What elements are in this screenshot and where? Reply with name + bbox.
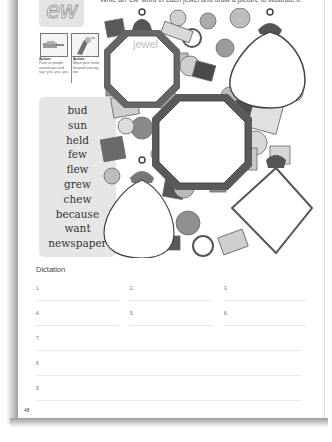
- writing-line: [224, 325, 306, 326]
- jewels-illustration: jewel: [100, 8, 324, 258]
- dictation-title: Dictation: [36, 265, 65, 274]
- action-2: Action: Move your head forward and say e…: [71, 57, 103, 83]
- dictation-number: 4.: [36, 311, 40, 316]
- instruction-text: Write an 'ew' word in each jewel and dra…: [100, 0, 302, 3]
- dictation-item-3[interactable]: 3.: [224, 286, 304, 310]
- dictation-item-2[interactable]: 2.: [130, 286, 210, 310]
- writing-line: [130, 325, 212, 326]
- page-shadow-bottom: [10, 418, 328, 428]
- dictation-item-4[interactable]: 4.: [36, 311, 116, 335]
- dictation-item-9[interactable]: 9.: [36, 386, 306, 410]
- writing-line: [36, 300, 118, 301]
- dictation-number: 5.: [130, 311, 134, 316]
- dictation-number: 1.: [36, 286, 40, 291]
- dictation-item-5[interactable]: 5.: [130, 311, 210, 335]
- sound-badge: ew: [39, 0, 84, 27]
- dictation-number: 8.: [36, 361, 40, 366]
- dictation-item-7[interactable]: 7.: [36, 336, 306, 360]
- dictation-item-8[interactable]: 8.: [36, 361, 306, 385]
- writing-line: [36, 325, 118, 326]
- sound-label: ew: [46, 0, 77, 22]
- action-2-text: Move your head forward and say ew.: [73, 61, 99, 74]
- dictation-item-1[interactable]: 1.: [36, 286, 116, 310]
- dictation-item-6[interactable]: 6.: [224, 311, 304, 335]
- writing-line: [36, 350, 301, 351]
- svg-text:ew: ew: [91, 36, 96, 40]
- dictation-number: 2.: [130, 286, 134, 291]
- example-jewel-word: jewel: [132, 38, 158, 50]
- writing-line: [224, 300, 306, 301]
- jewel-octagon-center: [152, 94, 252, 190]
- writing-line: [130, 300, 212, 301]
- action-1: Action: Point at people around you and s…: [39, 57, 69, 75]
- head-moving-icon: ew: [71, 33, 99, 57]
- writing-line: [36, 375, 301, 376]
- worksheet-page: Write an 'ew' word in each jewel and dra…: [18, 0, 325, 418]
- pointing-hand-icon: [40, 33, 68, 57]
- writing-line: [36, 400, 301, 401]
- dictation-number: 3.: [224, 286, 228, 291]
- dictation-number: 7.: [36, 336, 40, 341]
- action-1-text: Point at people around you and say: you,…: [39, 61, 69, 74]
- page-number: 48: [24, 408, 29, 413]
- dictation-number: 9.: [36, 386, 40, 391]
- dictation-number: 6.: [224, 311, 228, 316]
